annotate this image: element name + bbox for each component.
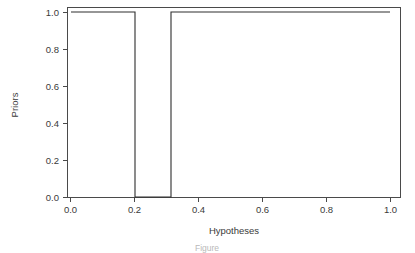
y-tick-label: 0.2 xyxy=(46,155,59,166)
y-tick-label: 0.6 xyxy=(46,81,59,92)
y-axis-ticks xyxy=(63,13,68,198)
y-axis-title: Priors xyxy=(9,92,20,117)
x-axis-title: Hypotheses xyxy=(209,225,259,236)
priors-line-chart: 1.0 0.8 0.6 0.4 0.2 0.0 0.0 0.2 0.4 0.6 … xyxy=(0,0,415,253)
y-tick-label: 0.4 xyxy=(46,118,59,129)
x-tick-label: 0.8 xyxy=(320,204,333,215)
figure-caption: Figure xyxy=(195,243,219,253)
figure-container: 1.0 0.8 0.6 0.4 0.2 0.0 0.0 0.2 0.4 0.6 … xyxy=(0,0,415,253)
x-tick-label: 1.0 xyxy=(384,204,397,215)
x-axis-tick-labels: 0.0 0.2 0.4 0.6 0.8 1.0 xyxy=(64,204,397,215)
x-tick-label: 0.2 xyxy=(128,204,141,215)
y-tick-label: 0.8 xyxy=(46,44,59,55)
prior-step-line xyxy=(71,12,390,197)
x-tick-label: 0.0 xyxy=(64,204,77,215)
plot-frame xyxy=(68,8,401,198)
x-axis-ticks xyxy=(71,198,391,203)
y-axis-tick-labels: 1.0 0.8 0.6 0.4 0.2 0.0 xyxy=(46,7,59,203)
x-tick-label: 0.4 xyxy=(192,204,205,215)
y-tick-label: 1.0 xyxy=(46,7,59,18)
x-tick-label: 0.6 xyxy=(256,204,269,215)
y-tick-label: 0.0 xyxy=(46,192,59,203)
